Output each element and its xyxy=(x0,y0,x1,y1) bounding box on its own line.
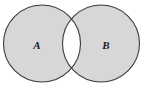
set-b-label: B xyxy=(101,39,109,51)
set-a-label: A xyxy=(32,39,40,51)
venn-diagram-figure: A B xyxy=(0,0,143,90)
venn-diagram-canvas: A B xyxy=(0,0,143,90)
